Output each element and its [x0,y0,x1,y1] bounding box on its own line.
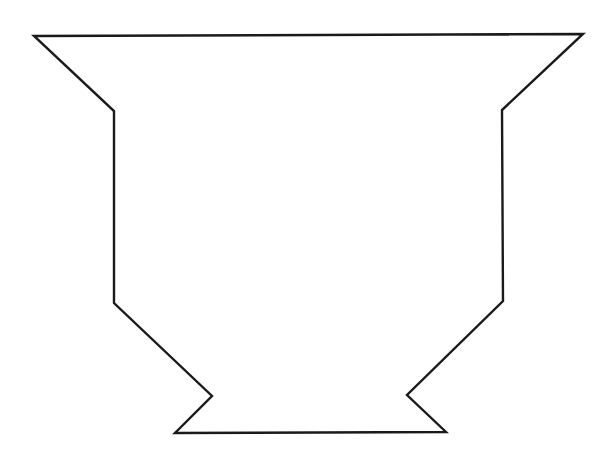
vase-polygon [34,34,583,433]
vase-outline-figure [0,0,610,459]
